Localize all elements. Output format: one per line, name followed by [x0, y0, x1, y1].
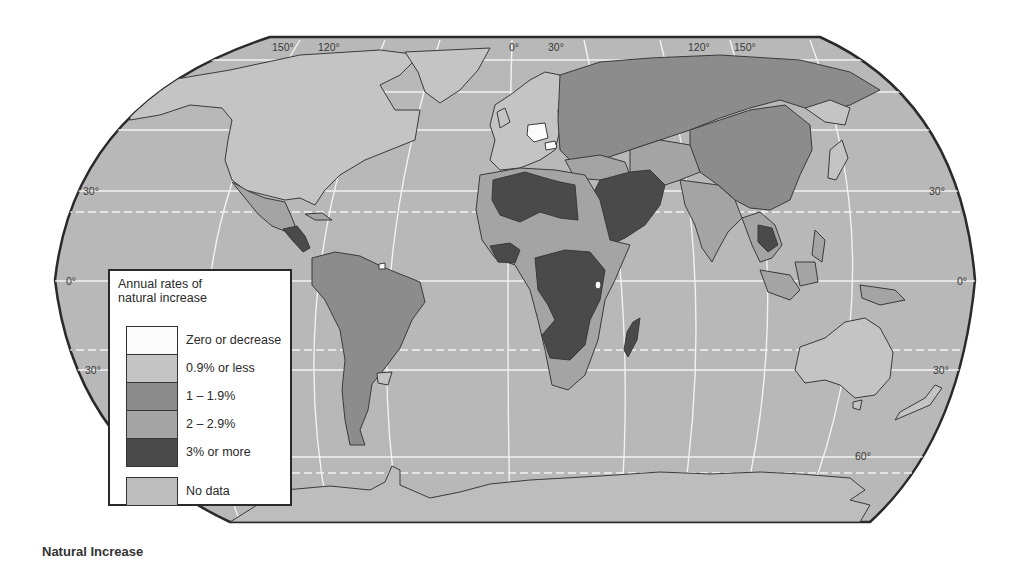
region-tasmania	[853, 400, 862, 410]
deg-label-top: 120°	[318, 41, 340, 53]
deg-label-top: 150°	[734, 41, 756, 53]
region-french-guiana	[379, 263, 385, 269]
deg-label-right: 30°	[929, 185, 945, 197]
legend-title: Annual rates of natural increase	[118, 277, 207, 305]
deg-label-right: 60°	[855, 450, 871, 462]
legend-label: 2 – 2.9%	[186, 417, 235, 431]
legend-swatch-no-data	[126, 477, 178, 506]
map-legend: Annual rates of natural increase Zero or…	[108, 269, 292, 506]
deg-label-left: 30°	[83, 185, 99, 197]
legend-label-no-data: No data	[186, 484, 230, 498]
legend-label: 1 – 1.9%	[186, 389, 235, 403]
legend-label: Zero or decrease	[186, 333, 281, 347]
legend-swatch-zero-or-decrease	[126, 326, 178, 354]
legend-label: 3% or more	[186, 445, 251, 459]
deg-label-top: 150°	[272, 41, 294, 53]
legend-swatch-1-1-9	[126, 382, 178, 410]
deg-label-right: 0°	[957, 275, 967, 287]
deg-label-right: 30°	[933, 364, 949, 376]
legend-swatch-3-or-more	[126, 438, 178, 467]
legend-swatch-0-9-or-less	[126, 354, 178, 382]
deg-label-left: 30°	[85, 364, 101, 376]
deg-label-top: 0°	[509, 41, 519, 53]
legend-label: 0.9% or less	[186, 361, 255, 375]
legend-swatch-2-2-9	[126, 410, 178, 438]
legend-swatches	[126, 326, 178, 467]
region-hungary	[545, 141, 557, 150]
deg-label-left: 0°	[66, 275, 76, 287]
lake-victoria	[595, 281, 601, 289]
deg-label-top: 30°	[548, 41, 564, 53]
map-caption: Natural Increase	[42, 544, 143, 559]
deg-label-top: 120°	[688, 41, 710, 53]
